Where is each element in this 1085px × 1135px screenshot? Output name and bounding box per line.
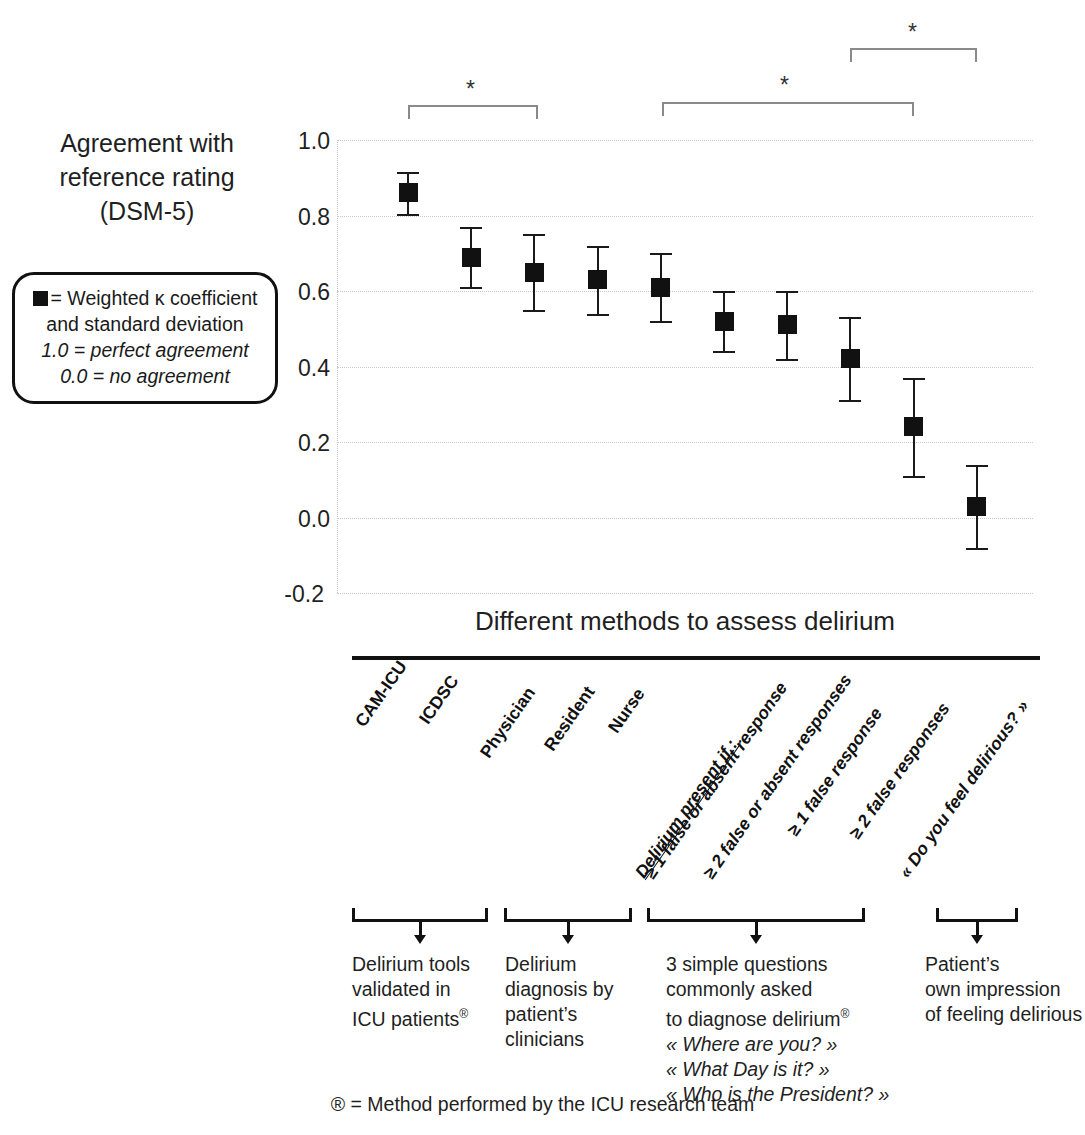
kappa-marker [525, 263, 544, 282]
x-label-resident: Resident [540, 682, 600, 755]
group-2-line-3: patient’s [505, 1002, 645, 1027]
error-bar-cap-lower [776, 359, 798, 361]
data-point-10 [962, 465, 992, 548]
x-axis-rule [352, 656, 1040, 660]
error-bar-cap-lower [839, 400, 861, 402]
error-bar-cap-lower [903, 476, 925, 478]
error-bar-cap-lower [650, 321, 672, 323]
error-bar-cap-upper [650, 253, 672, 255]
group-3-line-2: commonly asked [666, 977, 916, 1002]
error-bar-cap-upper [776, 291, 798, 293]
error-bar-cap-upper [713, 291, 735, 293]
x-label-nurse: Nurse [604, 684, 650, 737]
x-label-physician: Physician [476, 683, 540, 762]
data-point-6 [709, 291, 739, 351]
error-bar-cap-lower [523, 310, 545, 312]
data-points-layer [0, 0, 1085, 620]
group-3-question-2: « What Day is it? » [666, 1057, 916, 1082]
data-point-7 [772, 291, 802, 359]
x-label-icdsc: ICDSC [415, 671, 463, 728]
group-3-line-1: 3 simple questions [666, 952, 916, 977]
group-4-line-1: Patient’s [925, 952, 1085, 977]
kappa-marker [778, 315, 797, 334]
data-point-2 [456, 227, 486, 287]
error-bar-cap-upper [839, 317, 861, 319]
group-2-line-4: clinicians [505, 1027, 645, 1052]
error-bar-cap-lower [713, 351, 735, 353]
error-bar-cap-upper [523, 234, 545, 236]
error-bar-cap-upper [397, 172, 419, 174]
error-bar-cap-lower [966, 548, 988, 550]
kappa-marker [841, 349, 860, 368]
x-axis-title: Different methods to assess delirium [337, 606, 1033, 637]
group-1-line-1: Delirium tools [352, 952, 502, 977]
x-label-cam-icu: CAM-ICU [351, 657, 412, 731]
error-bar-cap-lower [587, 314, 609, 316]
group-1-line-3: ICU patients® [352, 1002, 502, 1032]
kappa-marker [399, 183, 418, 202]
group-text-clinician-diagnosis: Delirium diagnosis by patient’s clinicia… [505, 952, 645, 1052]
x-label-do-you-feel-delirious: « Do you feel delirious? » [895, 696, 1034, 882]
error-bar-cap-upper [587, 246, 609, 248]
data-point-3 [519, 234, 549, 310]
group-3-line-3: to diagnose delirium® [666, 1002, 916, 1032]
error-bar-cap-lower [397, 214, 419, 216]
error-bar-cap-lower [460, 287, 482, 289]
data-point-5 [646, 253, 676, 321]
error-bar-cap-upper [460, 227, 482, 229]
group-4-line-3: of feeling delirious [925, 1002, 1085, 1027]
kappa-marker [904, 417, 923, 436]
kappa-marker [462, 248, 481, 267]
group-text-delirium-tools: Delirium tools validated in ICU patients… [352, 952, 502, 1032]
kappa-marker [588, 270, 607, 289]
data-point-8 [835, 317, 865, 400]
footnote: ® = Method performed by the ICU research… [0, 1093, 1085, 1116]
kappa-marker [715, 312, 734, 331]
data-point-4 [583, 246, 613, 314]
group-3-question-1: « Where are you? » [666, 1032, 916, 1057]
group-1-line-2: validated in [352, 977, 502, 1002]
group-2-line-2: diagnosis by [505, 977, 645, 1002]
kappa-marker [967, 497, 986, 516]
group-4-line-2: own impression [925, 977, 1085, 1002]
kappa-marker [651, 278, 670, 297]
data-point-1 [393, 172, 423, 214]
error-bar-cap-upper [903, 378, 925, 380]
error-bar-cap-upper [966, 465, 988, 467]
group-text-three-simple-questions: 3 simple questions commonly asked to dia… [666, 952, 916, 1107]
data-point-9 [899, 378, 929, 476]
group-text-patient-impression: Patient’s own impression of feeling deli… [925, 952, 1085, 1027]
group-2-line-1: Delirium [505, 952, 645, 977]
